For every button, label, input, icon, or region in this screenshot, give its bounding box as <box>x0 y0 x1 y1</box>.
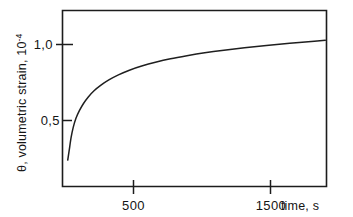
y-tick-label-1-0: 1,0 <box>34 37 53 52</box>
chart-plot-area: 1,0 0,5 500 1500 time, s θ, volumetric s… <box>0 0 353 217</box>
y-axis-title-group: θ, volumetric strain, 10-4 <box>14 33 30 172</box>
y-tick-label-0-5: 0,5 <box>41 113 60 128</box>
plot-frame <box>63 11 327 187</box>
x-tick-label-500: 500 <box>122 198 145 213</box>
y-axis-title: θ, volumetric strain, 10-4 <box>14 33 30 172</box>
chart-figure: 1,0 0,5 500 1500 time, s θ, volumetric s… <box>0 0 353 217</box>
y-axis-title-exponent: -4 <box>14 33 24 41</box>
y-axis-title-main: θ, volumetric strain, 10 <box>15 41 29 172</box>
series-volumetric-strain <box>68 40 326 160</box>
x-axis-title: time, s <box>281 199 319 213</box>
